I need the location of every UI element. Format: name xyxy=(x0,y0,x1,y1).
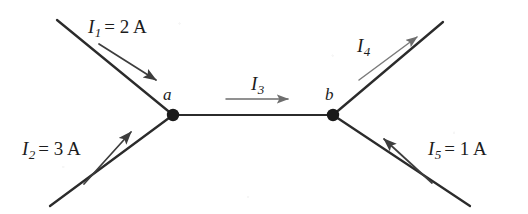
current-label-I4: I4 xyxy=(357,36,370,58)
current-label-I3: I3 xyxy=(251,74,264,96)
current-subscript-I4: 4 xyxy=(363,44,370,59)
current-value-I1: = 2 A xyxy=(101,16,146,37)
current-value-I5: = 1 A xyxy=(441,138,486,159)
circuit-diagram-svg xyxy=(0,0,528,214)
junction-dot-b xyxy=(327,109,339,121)
current-label-I5: I5= 1 A xyxy=(428,139,487,161)
junction-dot-a xyxy=(167,109,179,121)
wires xyxy=(50,20,470,206)
node-label-b: b xyxy=(325,86,334,103)
current-subscript-I3: 3 xyxy=(257,82,264,97)
wire-I4 xyxy=(333,22,443,115)
current-label-I1: I1= 2 A xyxy=(88,17,147,39)
node-label-a: a xyxy=(163,86,172,103)
current-direction-arrows xyxy=(84,37,432,184)
current-value-I2: = 3 A xyxy=(35,138,80,159)
current-junction-figure: I1= 2 A I2= 3 A I3 I4 I5= 1 A a b xyxy=(0,0,528,214)
arrow-I2 xyxy=(84,132,131,184)
arrow-I5 xyxy=(384,139,432,183)
current-label-I2: I2= 3 A xyxy=(22,139,81,161)
